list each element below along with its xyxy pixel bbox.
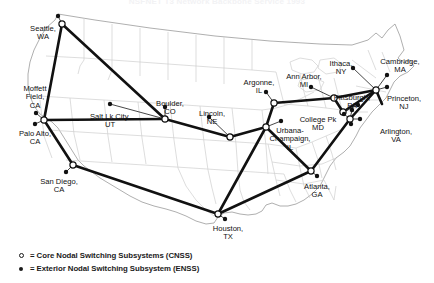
enss-node-princeton <box>385 85 389 89</box>
city-label-palo-alto: Palo Alto, CA <box>19 130 51 147</box>
enss-node-salt-lake-city <box>108 102 112 106</box>
city-label-college-park: College Pk MD <box>300 116 337 133</box>
cnss-node-atlanta <box>308 168 314 174</box>
city-label-lincoln: Lincoln, NE <box>199 110 225 127</box>
city-label-princeton: Princeton, NJ <box>387 95 421 112</box>
nsfnet-backbone-map: NSFNET T3 Network Backbone Service 1993 <box>0 0 434 283</box>
enss-node-seattle <box>56 14 60 18</box>
cnss-node-nynj <box>373 87 379 93</box>
city-label-moffett-field: Moffett Field, CA <box>23 85 46 110</box>
cnss-node-bayarea <box>41 117 47 123</box>
cnss-node-collegepk <box>347 116 353 122</box>
city-label-pittsburgh: Pittsburgh, PA <box>334 94 370 111</box>
cnss-node-boulder <box>162 116 168 122</box>
city-label-boulder: Boulder, CO <box>156 100 184 117</box>
city-label-ann-arbor: Ann Arbor, MI <box>286 73 321 90</box>
cnss-node-houston <box>215 211 221 217</box>
enss-node-college-park <box>342 112 346 116</box>
cnss-node-argonne <box>271 100 277 106</box>
legend-label-cnss: = Core Nodal Switching Subsystems (CNSS) <box>30 251 192 260</box>
city-label-salt-lake-city: Salt Lk City, UT <box>90 113 130 130</box>
cnss-node-sandiego <box>70 162 76 168</box>
enss-node-arlington-2 <box>358 117 362 121</box>
cnss-node-lincoln <box>227 134 233 140</box>
cnss-node-seattle <box>59 21 65 27</box>
open-circle-icon <box>14 253 28 258</box>
enss-node-atlanta <box>315 174 319 178</box>
city-label-cambridge: Cambridge, MA <box>380 58 419 75</box>
enss-node-arlington <box>349 122 353 126</box>
city-label-ithaca: Ithaca, NY <box>330 60 353 77</box>
city-label-argonne: Argonne, IL <box>244 79 275 96</box>
city-label-seattle: Seattle, WA <box>30 25 56 42</box>
city-label-san-diego: San Diego, CA <box>40 178 78 195</box>
enss-node-urbana-champaign <box>279 119 283 123</box>
legend-row-cnss: = Core Nodal Switching Subsystems (CNSS) <box>14 249 199 262</box>
city-label-houston: Houston, TX <box>213 225 243 242</box>
legend-row-enss: = Exterior Nodal Switching Subsystem (EN… <box>14 262 199 275</box>
enss-node-san-diego <box>64 170 68 174</box>
city-label-arlington: Arlington, VA <box>380 128 412 145</box>
enss-node-palo-alto <box>33 122 37 126</box>
enss-node-moffett-field <box>34 111 38 115</box>
enss-node-houston <box>223 217 227 221</box>
legend: = Core Nodal Switching Subsystems (CNSS)… <box>14 249 199 275</box>
filled-dot-icon <box>14 267 28 271</box>
cnss-node-urbana <box>263 124 269 130</box>
city-label-atlanta: Atlanta, GA <box>304 183 330 200</box>
legend-label-enss: = Exterior Nodal Switching Subsystem (EN… <box>30 264 199 273</box>
